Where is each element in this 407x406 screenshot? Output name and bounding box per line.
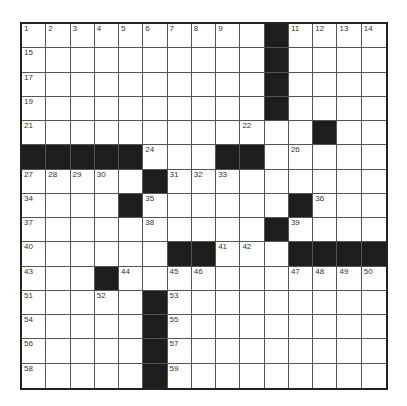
crossword-cell[interactable] <box>289 291 313 315</box>
crossword-cell[interactable] <box>289 97 313 121</box>
crossword-cell[interactable] <box>192 121 216 145</box>
crossword-cell[interactable] <box>46 339 70 363</box>
crossword-cell[interactable] <box>240 97 264 121</box>
crossword-cell[interactable] <box>313 97 337 121</box>
crossword-cell[interactable]: 52 <box>95 291 119 315</box>
crossword-cell[interactable] <box>46 48 70 72</box>
crossword-cell[interactable] <box>192 339 216 363</box>
crossword-cell[interactable] <box>362 339 386 363</box>
crossword-cell[interactable] <box>216 218 240 242</box>
crossword-cell[interactable] <box>216 291 240 315</box>
crossword-cell[interactable] <box>71 121 95 145</box>
crossword-cell[interactable]: 49 <box>337 267 361 291</box>
crossword-cell[interactable] <box>337 48 361 72</box>
crossword-cell[interactable]: 22 <box>240 121 264 145</box>
crossword-cell[interactable] <box>192 218 216 242</box>
crossword-cell[interactable] <box>143 121 167 145</box>
crossword-cell[interactable]: 53 <box>168 291 192 315</box>
crossword-cell[interactable]: 40 <box>22 242 46 266</box>
crossword-cell[interactable] <box>362 145 386 169</box>
crossword-cell[interactable] <box>46 97 70 121</box>
crossword-cell[interactable] <box>362 218 386 242</box>
crossword-cell[interactable] <box>192 73 216 97</box>
crossword-cell[interactable] <box>216 73 240 97</box>
crossword-cell[interactable] <box>265 267 289 291</box>
crossword-cell[interactable] <box>265 194 289 218</box>
crossword-cell[interactable]: 9 <box>216 24 240 48</box>
crossword-cell[interactable] <box>95 339 119 363</box>
crossword-cell[interactable] <box>240 24 264 48</box>
crossword-cell[interactable] <box>168 121 192 145</box>
crossword-cell[interactable] <box>265 145 289 169</box>
crossword-cell[interactable] <box>71 194 95 218</box>
crossword-cell[interactable] <box>71 315 95 339</box>
crossword-cell[interactable] <box>313 170 337 194</box>
crossword-cell[interactable]: 14 <box>362 24 386 48</box>
crossword-cell[interactable] <box>240 315 264 339</box>
crossword-cell[interactable] <box>337 315 361 339</box>
crossword-cell[interactable] <box>313 48 337 72</box>
crossword-cell[interactable] <box>216 48 240 72</box>
crossword-cell[interactable] <box>337 218 361 242</box>
crossword-cell[interactable] <box>168 145 192 169</box>
crossword-cell[interactable] <box>289 339 313 363</box>
crossword-cell[interactable] <box>216 97 240 121</box>
crossword-cell[interactable] <box>71 48 95 72</box>
crossword-cell[interactable]: 26 <box>289 145 313 169</box>
crossword-cell[interactable] <box>71 339 95 363</box>
crossword-cell[interactable] <box>313 339 337 363</box>
crossword-cell[interactable] <box>95 315 119 339</box>
crossword-cell[interactable] <box>265 364 289 388</box>
crossword-cell[interactable] <box>216 194 240 218</box>
crossword-cell[interactable] <box>362 291 386 315</box>
crossword-cell[interactable]: 21 <box>22 121 46 145</box>
crossword-cell[interactable] <box>46 291 70 315</box>
crossword-cell[interactable]: 37 <box>22 218 46 242</box>
crossword-cell[interactable] <box>71 267 95 291</box>
crossword-cell[interactable] <box>362 73 386 97</box>
crossword-cell[interactable] <box>143 267 167 291</box>
crossword-cell[interactable] <box>119 291 143 315</box>
crossword-cell[interactable]: 5 <box>119 24 143 48</box>
crossword-cell[interactable] <box>265 291 289 315</box>
crossword-cell[interactable] <box>192 364 216 388</box>
crossword-cell[interactable] <box>192 315 216 339</box>
crossword-cell[interactable] <box>337 121 361 145</box>
crossword-cell[interactable] <box>337 364 361 388</box>
crossword-cell[interactable]: 12 <box>313 24 337 48</box>
crossword-cell[interactable] <box>46 218 70 242</box>
crossword-cell[interactable]: 43 <box>22 267 46 291</box>
crossword-cell[interactable] <box>46 194 70 218</box>
crossword-cell[interactable]: 56 <box>22 339 46 363</box>
crossword-cell[interactable]: 46 <box>192 267 216 291</box>
crossword-cell[interactable] <box>289 170 313 194</box>
crossword-cell[interactable]: 35 <box>143 194 167 218</box>
crossword-cell[interactable] <box>362 315 386 339</box>
crossword-cell[interactable] <box>192 48 216 72</box>
crossword-cell[interactable] <box>168 218 192 242</box>
crossword-cell[interactable] <box>265 170 289 194</box>
crossword-cell[interactable] <box>71 73 95 97</box>
crossword-cell[interactable]: 42 <box>240 242 264 266</box>
crossword-cell[interactable]: 34 <box>22 194 46 218</box>
crossword-cell[interactable] <box>313 291 337 315</box>
crossword-cell[interactable] <box>95 242 119 266</box>
crossword-cell[interactable] <box>46 73 70 97</box>
crossword-cell[interactable] <box>143 242 167 266</box>
crossword-cell[interactable] <box>119 170 143 194</box>
crossword-cell[interactable] <box>337 339 361 363</box>
crossword-cell[interactable] <box>119 218 143 242</box>
crossword-cell[interactable] <box>362 194 386 218</box>
crossword-cell[interactable] <box>168 194 192 218</box>
crossword-cell[interactable]: 57 <box>168 339 192 363</box>
crossword-cell[interactable] <box>46 315 70 339</box>
crossword-cell[interactable] <box>289 48 313 72</box>
crossword-cell[interactable] <box>216 339 240 363</box>
crossword-cell[interactable] <box>95 218 119 242</box>
crossword-cell[interactable] <box>362 97 386 121</box>
crossword-cell[interactable] <box>337 145 361 169</box>
crossword-cell[interactable] <box>143 97 167 121</box>
crossword-cell[interactable] <box>337 73 361 97</box>
crossword-cell[interactable] <box>192 194 216 218</box>
crossword-cell[interactable] <box>168 73 192 97</box>
